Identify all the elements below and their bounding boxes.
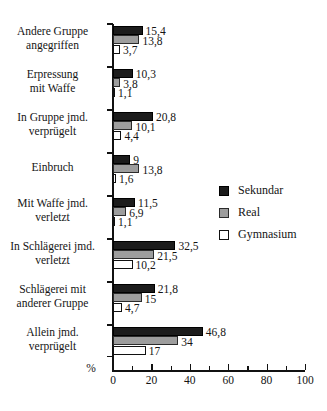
bar-value-label: 21,8 <box>158 284 178 295</box>
bar <box>113 121 132 130</box>
category-label-line: In Schlägerei jmd. <box>0 240 105 254</box>
x-tick-minor-50 <box>209 366 210 370</box>
bar-value-label: 10,3 <box>136 69 156 80</box>
x-tick-label-80: 80 <box>252 374 282 387</box>
bar <box>113 164 139 173</box>
x-tick-label-100: 100 <box>290 374 320 387</box>
category-label-line: Erpressung <box>0 68 105 82</box>
y-tick-end <box>107 356 113 358</box>
legend-label: Gymnasium <box>238 227 297 242</box>
bar <box>113 69 133 78</box>
plot-area: 020406080100 15,413,83,710,33,81,120,810… <box>0 0 327 411</box>
bar <box>113 45 120 54</box>
legend-label: Real <box>238 205 260 220</box>
x-axis-line <box>112 370 305 372</box>
category-label-line: Einbruch <box>0 161 105 175</box>
bar <box>113 327 203 336</box>
x-tick-100 <box>305 364 306 370</box>
x-tick-label-60: 60 <box>213 374 243 387</box>
category-label: Einbruch <box>0 161 105 175</box>
x-tick-minor-70 <box>247 366 248 370</box>
bar <box>113 250 154 259</box>
x-tick-label-40: 40 <box>175 374 205 387</box>
category-label: In Schlägerei jmd.verletzt <box>0 240 105 267</box>
category-label-line: In Gruppe jmd. <box>0 111 105 125</box>
category-label: Allein jmd.verprügelt <box>0 326 105 353</box>
category-label-line: verletzt <box>0 211 105 225</box>
bar-value-label: 17 <box>149 346 161 357</box>
category-label-line: Mit Waffe jmd. <box>0 197 105 211</box>
bar-value-label: 13,8 <box>142 165 162 176</box>
bar-value-label: 13,8 <box>142 36 162 47</box>
bar <box>113 207 126 216</box>
legend-swatch-icon <box>219 208 229 218</box>
category-label-line: mit Waffe <box>0 82 105 96</box>
category-label-line: anderer Gruppe <box>0 297 105 311</box>
bar-value-label: 4,4 <box>124 131 138 142</box>
category-label-line: Allein jmd. <box>0 326 105 340</box>
category-label: Andere Gruppeangegriffen <box>0 25 105 52</box>
category-label-line: Schlägerei mit <box>0 283 105 297</box>
bar <box>113 284 155 293</box>
bar-value-label: 1,6 <box>119 174 133 185</box>
bar-value-label: 10,2 <box>136 260 156 271</box>
bar <box>113 35 139 44</box>
bar <box>113 174 116 183</box>
bar-value-label: 4,7 <box>125 303 139 314</box>
legend-swatch-icon <box>219 186 229 196</box>
x-axis-unit-label: % <box>80 362 102 374</box>
category-label-line: verletzt <box>0 254 105 268</box>
bar <box>113 88 115 97</box>
bar-value-label: 46,8 <box>206 327 226 338</box>
bar-value-label: 3,7 <box>123 45 137 56</box>
bar <box>113 346 146 355</box>
bar <box>113 131 121 140</box>
bar-value-label: 1,1 <box>118 88 132 99</box>
x-tick-minor-10 <box>132 366 133 370</box>
category-label: Schlägerei mitanderer Gruppe <box>0 283 105 310</box>
category-label-line: verprügelt <box>0 125 105 139</box>
legend-label: Sekundar <box>238 183 283 198</box>
category-label: Mit Waffe jmd.verletzt <box>0 197 105 224</box>
category-label-line: Andere Gruppe <box>0 25 105 39</box>
category-label-line: angegriffen <box>0 39 105 53</box>
bar-value-label: 21,5 <box>157 251 177 262</box>
bar-value-label: 15 <box>145 294 157 305</box>
bar-chart: 020406080100 15,413,83,710,33,81,120,810… <box>0 0 327 411</box>
x-tick-0 <box>113 364 114 370</box>
bar <box>113 260 133 269</box>
bar <box>113 198 135 207</box>
category-label: Erpressungmit Waffe <box>0 68 105 95</box>
x-tick-20 <box>151 364 152 370</box>
x-tick-80 <box>267 364 268 370</box>
bar-value-label: 34 <box>181 337 193 348</box>
bar <box>113 217 115 226</box>
bar <box>113 26 143 35</box>
legend-swatch-icon <box>219 230 229 240</box>
bar <box>113 155 130 164</box>
bar-value-label: 20,8 <box>156 112 176 123</box>
bar <box>113 112 153 121</box>
category-label: In Gruppe jmd.verprügelt <box>0 111 105 138</box>
x-tick-60 <box>228 364 229 370</box>
bar <box>113 78 120 87</box>
x-tick-label-0: 0 <box>98 374 128 387</box>
bar-value-label: 1,1 <box>118 217 132 228</box>
bar <box>113 336 178 345</box>
x-tick-label-20: 20 <box>136 374 166 387</box>
bar <box>113 303 122 312</box>
x-tick-minor-90 <box>286 366 287 370</box>
category-label-line: verprügelt <box>0 340 105 354</box>
x-tick-40 <box>190 364 191 370</box>
bar-value-label: 32,5 <box>178 241 198 252</box>
x-tick-minor-30 <box>171 366 172 370</box>
bar <box>113 293 142 302</box>
bar <box>113 241 175 250</box>
